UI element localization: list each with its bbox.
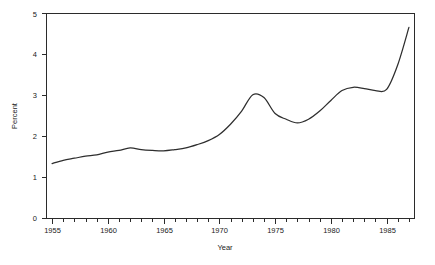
y-tick-label-0: 0 <box>33 214 37 223</box>
y-tick-label-1: 1 <box>33 173 37 182</box>
x-tick-label-1980: 1980 <box>323 226 340 235</box>
chart-canvas: 0 1 2 3 4 5 1955196019651970197519801985… <box>0 0 435 265</box>
x-axis-ticks <box>53 219 410 224</box>
y-tick-label-5: 5 <box>33 10 37 19</box>
x-tick-label-1970: 1970 <box>211 226 228 235</box>
x-axis-title: Year <box>217 243 233 252</box>
x-tick-label-1975: 1975 <box>267 226 284 235</box>
y-axis-ticks: 0 1 2 3 4 5 <box>33 10 47 224</box>
x-tick-label-1965: 1965 <box>156 226 173 235</box>
y-tick-label-4: 4 <box>33 50 37 59</box>
x-tick-label-1985: 1985 <box>379 226 396 235</box>
x-tick-label-1955: 1955 <box>44 226 61 235</box>
line-chart-figure: 0 1 2 3 4 5 1955196019651970197519801985… <box>0 0 435 265</box>
x-tick-label-1960: 1960 <box>100 226 117 235</box>
y-tick-label-3: 3 <box>33 91 37 100</box>
y-axis-title: Percent <box>10 102 19 129</box>
x-axis-tick-labels: 1955196019651970197519801985 <box>44 226 396 235</box>
plot-frame <box>47 14 415 219</box>
data-line-percent <box>52 27 409 163</box>
y-tick-label-2: 2 <box>33 132 37 141</box>
